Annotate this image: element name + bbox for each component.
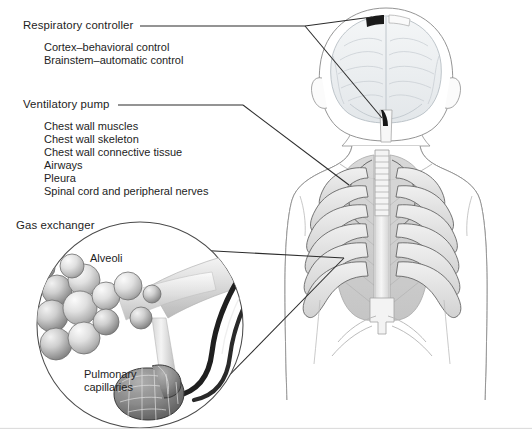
ventilatory-pump-item-3: Airways bbox=[44, 159, 83, 172]
alveolus-single-upper bbox=[114, 272, 142, 300]
ventilatory-pump-item-0: Chest wall muscles bbox=[44, 120, 138, 133]
ventilatory-pump-item-1: Chest wall skeleton bbox=[44, 133, 139, 146]
ventilatory-pump-item-5: Spinal cord and peripheral nerves bbox=[44, 185, 209, 198]
pulmonary-capillaries-label-line1: Pulmonary bbox=[84, 368, 137, 381]
head-illustration bbox=[311, 8, 460, 146]
gas-exchanger-heading: Gas exchanger bbox=[16, 219, 95, 233]
respiratory-system-figure: Respiratory controller Cortex–behavioral… bbox=[0, 0, 532, 429]
alveoli-label: Alveoli bbox=[90, 252, 122, 265]
respiratory-controller-item-1: Brainstem–automatic control bbox=[44, 54, 183, 67]
torso-illustration bbox=[285, 146, 487, 400]
respiratory-controller-heading: Respiratory controller bbox=[23, 19, 133, 33]
ventilatory-pump-item-2: Chest wall connective tissue bbox=[44, 146, 182, 159]
respiratory-controller-item-0: Cortex–behavioral control bbox=[44, 41, 169, 54]
ventilatory-pump-item-4: Pleura bbox=[44, 172, 76, 185]
alveolus-single-lower bbox=[130, 307, 152, 329]
ventilatory-pump-heading: Ventilatory pump bbox=[23, 98, 109, 112]
pulmonary-capillaries-label-line2: capillaries bbox=[84, 381, 133, 394]
trachea bbox=[375, 150, 389, 216]
